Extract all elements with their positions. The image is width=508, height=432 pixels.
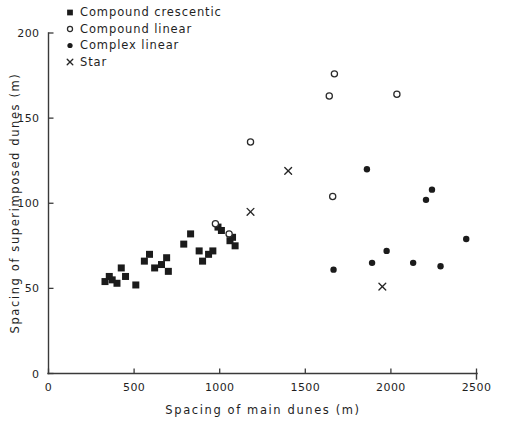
y-axis-title: Spacing of superimposed dunes (m) [8, 73, 22, 334]
data-point-open-circle [247, 139, 253, 145]
x-tick-label: 2500 [462, 381, 492, 394]
data-point-filled-circle [330, 266, 336, 272]
legend-label: Complex linear [80, 38, 179, 52]
data-point-filled-circle [423, 197, 429, 203]
data-point-filled-square [218, 227, 225, 234]
data-points-layer [101, 71, 469, 290]
data-point-filled-square [151, 264, 158, 271]
data-point-filled-circle [364, 166, 370, 172]
data-point-filled-square [158, 261, 165, 268]
data-point-filled-square [113, 280, 120, 287]
data-point-filled-square [122, 273, 129, 280]
data-point-cross [247, 208, 254, 215]
data-point-filled-square [209, 247, 216, 254]
plot-canvas: 050100150200 05001000150020002500 Spacin… [0, 0, 508, 432]
data-point-open-circle [330, 193, 336, 199]
data-point-filled-square [180, 241, 187, 248]
x-tick-label: 0 [45, 381, 52, 394]
data-point-open-circle [326, 93, 332, 99]
data-point-filled-square [165, 268, 172, 275]
data-point-filled-square [199, 258, 206, 265]
data-point-cross [285, 168, 292, 175]
data-point-open-circle [331, 71, 337, 77]
series-compound-linear [212, 71, 400, 237]
data-point-filled-square [132, 281, 139, 288]
data-point-open-circle [226, 231, 232, 237]
data-point-filled-square [232, 242, 239, 249]
x-tick-label: 1500 [290, 381, 320, 394]
legend-entry: Compound linear [67, 22, 192, 36]
data-point-filled-square [196, 247, 203, 254]
legend-label: Compound crescentic [80, 5, 222, 19]
data-point-cross [379, 283, 386, 290]
data-point-filled-circle [369, 260, 375, 266]
data-point-open-circle [67, 26, 72, 31]
legend-entry: Complex linear [67, 38, 179, 52]
series-star [247, 168, 386, 291]
data-point-filled-square [118, 264, 125, 271]
scatter-plot-figure: 050100150200 05001000150020002500 Spacin… [0, 0, 508, 432]
series-compound-crescentic [101, 224, 238, 289]
data-point-filled-square [146, 251, 153, 258]
data-point-open-circle [394, 91, 400, 97]
y-tick-label: 0 [32, 368, 39, 381]
data-point-filled-circle [67, 43, 72, 48]
legend-entry: Compound crescentic [67, 5, 222, 19]
x-axis-ticks: 05001000150020002500 [45, 369, 492, 394]
x-tick-label: 1000 [205, 381, 235, 394]
data-point-open-circle [212, 221, 218, 227]
x-tick-label: 500 [123, 381, 145, 394]
legend-entry: Star [67, 55, 107, 69]
data-point-filled-circle [383, 248, 389, 254]
legend-label: Compound linear [80, 22, 192, 36]
data-point-filled-square [141, 258, 148, 265]
y-tick-label: 200 [17, 27, 39, 40]
series-complex-linear [330, 166, 469, 273]
data-point-filled-circle [429, 186, 435, 192]
data-point-filled-circle [463, 236, 469, 242]
x-tick-label: 2000 [376, 381, 406, 394]
y-tick-label: 50 [25, 282, 40, 295]
data-point-filled-circle [437, 263, 443, 269]
x-axis-title: Spacing of main dunes (m) [165, 403, 360, 417]
legend-label: Star [80, 55, 107, 69]
data-point-filled-square [187, 230, 194, 237]
data-point-cross [67, 59, 73, 65]
legend: Compound crescenticCompound linearComple… [67, 5, 222, 69]
data-point-filled-circle [410, 260, 416, 266]
axes-group [48, 33, 477, 379]
data-point-filled-square [163, 254, 170, 261]
data-point-filled-square [67, 10, 73, 16]
